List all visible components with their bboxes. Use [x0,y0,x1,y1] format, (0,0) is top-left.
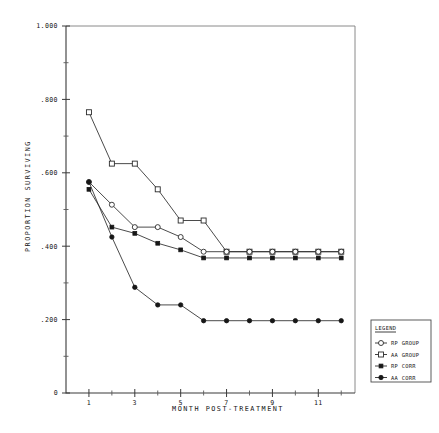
axis-left-bottom [66,26,355,393]
legend-marker-icon [379,364,383,368]
data-point [248,256,252,260]
series-line [89,182,341,252]
data-point [178,235,183,240]
series-rp-corr [87,187,343,259]
y-tick-label: 0 [54,389,58,397]
series-aa-group [86,179,343,254]
data-point [316,249,321,254]
data-point [271,256,275,260]
x-tick-label: 11 [314,399,323,407]
y-tick-label: .400 [41,243,58,251]
data-point [110,235,114,239]
data-point [179,248,183,252]
data-point [132,161,137,166]
legend-marker-icon [379,352,384,357]
y-tick-label: .600 [41,169,58,177]
legend-entry-label: AA CORR [391,375,416,381]
data-point [156,241,160,245]
data-point [225,256,229,260]
data-point [178,218,183,223]
chart-legend: LEGENDRP GROUPAA GROUPRP CORRAA CORR [371,320,431,382]
data-point [247,249,252,254]
legend-entry: RP CORR [375,363,416,369]
legend-entry: AA CORR [375,375,416,381]
data-point [86,110,91,115]
legend-entry-label: RP GROUP [391,340,419,346]
data-point [224,249,229,254]
survival-chart: 0.200.400.600.8001.000 1357911 PROPORTIO… [0,0,439,433]
data-point [339,319,343,323]
data-point [87,180,91,184]
plot-frame [66,26,355,393]
y-tick-label: 1.000 [36,22,58,30]
legend-marker-icon [379,375,383,379]
data-point [201,249,206,254]
y-axis-title: PROPORTION SURVIVING [24,140,32,252]
series-line [89,189,341,258]
data-point [156,303,160,307]
series-rp-group [86,110,343,254]
data-point [316,319,320,323]
data-point [178,303,182,307]
y-tick-label: .200 [41,316,58,324]
data-point [339,256,343,260]
data-point [109,161,114,166]
y-axis: 0.200.400.600.8001.000 [36,22,70,397]
data-series-group [86,110,343,323]
y-tick-label: .800 [41,96,58,104]
data-point [133,285,137,289]
data-point [293,256,297,260]
data-point [339,249,344,254]
legend-marker-icon [379,341,384,346]
data-point [110,225,114,229]
chart-canvas: 0.200.400.600.8001.000 1357911 PROPORTIO… [0,0,439,433]
data-point [224,319,228,323]
data-point [247,319,251,323]
data-point [201,218,206,223]
x-tick-label: 1 [87,399,91,407]
legend-entry-label: AA GROUP [391,352,419,358]
data-point [202,256,206,260]
data-point [109,202,114,207]
legend-entry-label: RP CORR [391,363,416,369]
data-point [270,249,275,254]
data-point [87,187,91,191]
frame-top-right [66,26,355,393]
x-axis-title: MONTH POST-TREATMENT [172,405,284,413]
legend-title: LEGEND [375,325,396,331]
legend-entry: RP GROUP [375,340,419,346]
data-point [201,319,205,323]
data-point [133,231,137,235]
data-point [155,187,160,192]
x-tick-label: 3 [133,399,137,407]
data-point [270,319,274,323]
data-point [293,319,297,323]
data-point [132,225,137,230]
data-point [293,249,298,254]
legend-entry: AA GROUP [375,352,419,358]
data-point [155,225,160,230]
data-point [316,256,320,260]
